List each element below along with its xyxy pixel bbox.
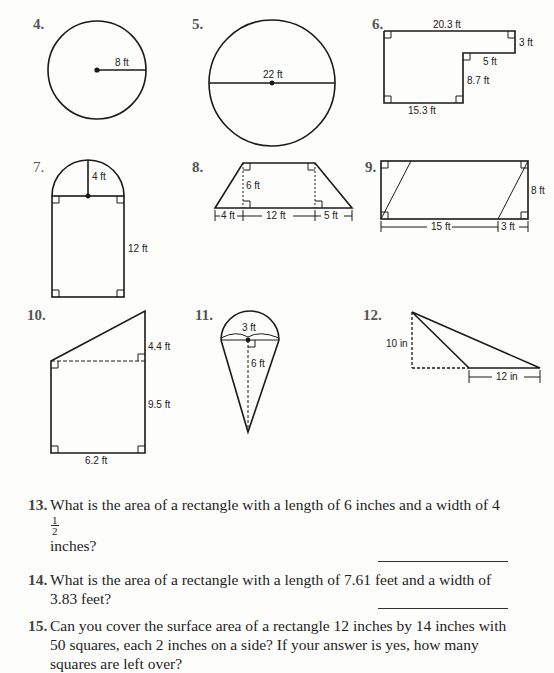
rectangle-body [52, 196, 124, 297]
question-text: What is the area of a rectangle with a l… [28, 570, 508, 608]
trapezoid-shape [215, 163, 352, 208]
bottom-length-label: 15.3 ft [408, 105, 436, 116]
l-shape [384, 31, 515, 103]
figure-11: 11. 3 ft 6 ft [195, 307, 279, 432]
inner-height-label: 8.7 ft [467, 75, 489, 86]
offset-label: 3 ft [501, 221, 515, 232]
fraction: 12 [51, 515, 59, 536]
question-text-start: What is the area of a rectangle with a l… [50, 496, 500, 513]
question-14: 14. What is the area of a rectangle with… [28, 570, 508, 608]
lower-height-label: 9.5 ft [148, 399, 170, 410]
left-base-label: 4 ft [221, 210, 235, 221]
center-point [270, 81, 273, 84]
figure-9: 9. 8 ft 15 ft 3 ft [365, 159, 545, 232]
step-length-label: 5 ft [483, 56, 497, 67]
parallelogram-sides [381, 161, 528, 219]
cone-sides [221, 340, 279, 432]
right-angle-marks [51, 354, 145, 453]
figure-number: 9. [365, 159, 377, 175]
top-length-label: 20.3 ft [433, 19, 461, 30]
question-number: 14. [28, 570, 47, 589]
question-number: 13. [28, 495, 47, 514]
diameter-label: 22 ft [263, 69, 283, 80]
figure-8: 8. 6 ft 4 ft 12 ft 5 ft [192, 159, 352, 221]
question-text: Can you cover the surface area of a rect… [28, 616, 508, 673]
figure-number: 5. [192, 16, 204, 32]
figures-canvas: 4. 8 ft 5. 22 ft 6. 20.3 ft 3 ft 5 ft 8.… [0, 0, 554, 480]
rectangle-shape [381, 161, 528, 219]
answer-line-13[interactable] [378, 561, 508, 562]
diameter-label: 3 ft [242, 322, 256, 333]
figure-number: 6. [372, 16, 384, 32]
figure-number: 12. [363, 307, 382, 323]
question-13: 13. What is the area of a rectangle with… [28, 495, 508, 555]
question-15: 15. Can you cover the surface area of a … [28, 616, 508, 673]
diameter-brace [221, 334, 279, 338]
right-height-label: 3 ft [519, 37, 533, 48]
right-angle-marks [52, 196, 124, 297]
figure-number: 10. [27, 307, 46, 323]
figure-7: 7. 4 ft 12 ft [33, 159, 148, 297]
middle-base-label: 12 ft [266, 210, 286, 221]
height-label: 6 ft [246, 180, 260, 191]
figure-number: 8. [192, 159, 204, 175]
figure-10: 10. 4.4 ft 9.5 ft 6.2 ft [27, 307, 170, 466]
fraction-denominator: 2 [51, 526, 59, 536]
height-label: 10 in [386, 338, 408, 349]
center-point [246, 338, 249, 341]
height-label: 6 ft [251, 358, 265, 369]
base-label: 15 ft [431, 221, 451, 232]
question-number: 15. [28, 616, 47, 635]
figure-number: 4. [33, 16, 45, 32]
center-point [86, 194, 89, 197]
question-text-end: inches? [50, 537, 96, 554]
right-angle-marks [381, 161, 528, 219]
trapezoid-shape [51, 311, 145, 453]
question-text: What is the area of a rectangle with a l… [28, 495, 508, 555]
base-label: 6.2 ft [85, 455, 107, 466]
figure-12: 12. 10 in 12 in [363, 307, 540, 383]
figure-number: 11. [195, 307, 213, 323]
right-base-label: 5 ft [324, 210, 338, 221]
height-label: 12 ft [128, 243, 148, 254]
figure-6: 6. 20.3 ft 3 ft 5 ft 8.7 ft 15.3 ft [372, 16, 533, 116]
right-angle-marks [384, 31, 515, 103]
figure-4: 4. 8 ft [33, 16, 146, 119]
figure-number: 7. [33, 159, 44, 175]
base-label: 12 in [496, 371, 518, 382]
figure-5: 5. 22 ft [192, 16, 335, 146]
answer-line-14[interactable] [378, 608, 508, 609]
radius-label: 8 ft [115, 57, 129, 68]
radius-label: 4 ft [92, 171, 106, 182]
upper-height-label: 4.4 ft [148, 341, 170, 352]
height-label: 8 ft [531, 185, 545, 196]
triangle-shape [412, 312, 540, 368]
